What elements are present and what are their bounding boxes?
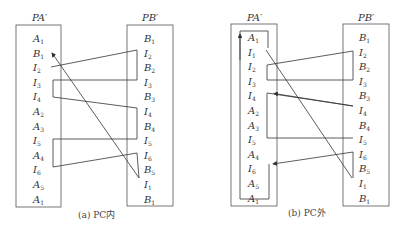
right-item: I4 (143, 106, 152, 118)
left-item: I6 (247, 163, 256, 175)
pa-title-b: PA′ (246, 12, 263, 23)
pa-list-b: A1I1I2I3I4A2A3I5A4I6A5A1 (247, 32, 259, 205)
left-item: A5 (247, 178, 259, 190)
right-item: I3 (143, 77, 152, 89)
right-item: I2 (358, 47, 367, 59)
left-item: I5 (32, 135, 41, 147)
return-arrow-a (52, 53, 139, 178)
right-item: B3 (358, 90, 370, 102)
right-item: I1 (143, 179, 152, 191)
left-item: B1 (32, 48, 44, 60)
left-item: A1 (32, 33, 44, 45)
left-item: I3 (247, 76, 256, 88)
right-item: I6 (358, 149, 367, 161)
right-item: I3 (358, 76, 367, 88)
left-item: A1 (247, 32, 259, 44)
right-item: B4 (143, 121, 155, 133)
left-item: A4 (32, 150, 44, 162)
diagram-canvas: PA′ PB′ A1B1I2I3I4A2A3I5A4I6A5A1 B1I2B2I… (0, 0, 398, 234)
caption-b: (b) PC外 (288, 207, 326, 218)
right-item: B4 (358, 120, 370, 132)
right-item: B5 (143, 164, 155, 176)
left-item: I2 (32, 62, 41, 74)
pa-list-a: A1B1I2I3I4A2A3I5A4I6A5A1 (32, 33, 44, 206)
left-item: I1 (247, 47, 256, 59)
right-item: I6 (143, 150, 152, 162)
arrow-i4-b (274, 94, 353, 107)
left-item: A1 (32, 194, 44, 206)
right-item: B3 (143, 91, 155, 103)
left-item: A3 (247, 120, 259, 132)
left-item: I2 (247, 61, 256, 73)
right-item: B5 (358, 163, 370, 175)
left-item: A2 (32, 106, 44, 118)
pb-list-a: B1I2B2I3B3I4B4I5I6B5I1B1 (143, 33, 155, 206)
figure-a: PA′ PB′ A1B1I2I3I4A2A3I5A4I6A5A1 B1I2B2I… (16, 12, 173, 220)
right-item: B1 (143, 194, 155, 206)
left-item: A5 (32, 179, 44, 191)
right-item: I5 (143, 135, 152, 147)
left-item: A3 (32, 121, 44, 133)
left-item: A2 (247, 105, 259, 117)
right-item: I5 (358, 134, 367, 146)
caption-a: (a) PC内 (78, 209, 115, 220)
pa-title-a: PA′ (31, 12, 48, 23)
right-item: B2 (358, 61, 370, 73)
pb-title-a: PB′ (141, 12, 159, 23)
loop-upper-b (267, 51, 353, 80)
figure-b: PA′ PB′ A1I1I2I3I4A2A3I5A4I6A5A1 B1I2B2I… (231, 12, 389, 218)
pb-list-b: B1I2B2I3B3I4B4I5I6B5I1B1 (358, 32, 370, 205)
right-item: B1 (358, 32, 370, 44)
left-item: A4 (247, 149, 259, 161)
right-item: I4 (358, 105, 367, 117)
right-item: B1 (358, 193, 370, 205)
right-item: B2 (143, 62, 155, 74)
right-item: I2 (143, 48, 152, 60)
pb-title-b: PB′ (357, 12, 375, 23)
right-item: I1 (358, 178, 367, 190)
left-item: I6 (32, 164, 41, 176)
left-item: I5 (247, 134, 256, 146)
left-item: I4 (247, 90, 256, 102)
left-item: I4 (32, 91, 41, 103)
left-item: I3 (32, 77, 41, 89)
right-item: B1 (143, 33, 155, 45)
